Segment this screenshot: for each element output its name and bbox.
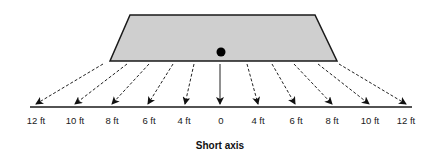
tick-label: 0 — [218, 115, 223, 126]
tick-label: 8 ft — [325, 115, 339, 126]
axis-title: Short axis — [196, 140, 245, 151]
distance-arrow — [185, 64, 194, 104]
tick-label: 10 ft — [361, 115, 380, 126]
arrows-group — [36, 64, 406, 104]
tick-label: 12 ft — [27, 115, 46, 126]
short-axis-diagram: 12 ft10 ft8 ft6 ft4 ft04 ft6 ft8 ft10 ft… — [0, 0, 439, 162]
tick-label: 8 ft — [105, 115, 119, 126]
tick-label: 10 ft — [66, 115, 85, 126]
distance-arrow — [272, 64, 295, 104]
tick-labels-group: 12 ft10 ft8 ft6 ft4 ft04 ft6 ft8 ft10 ft… — [27, 115, 416, 126]
distance-arrow — [75, 64, 127, 104]
tick-label: 6 ft — [142, 115, 156, 126]
distance-arrow — [36, 64, 103, 104]
center-dot — [217, 48, 226, 57]
distance-arrow — [247, 64, 258, 104]
tick-label: 4 ft — [251, 115, 265, 126]
distance-arrow — [148, 64, 173, 104]
tick-label: 6 ft — [289, 115, 303, 126]
tick-label: 12 ft — [397, 115, 416, 126]
tick-label: 4 ft — [177, 115, 191, 126]
distance-arrow — [112, 64, 149, 104]
distance-arrow — [339, 64, 406, 104]
